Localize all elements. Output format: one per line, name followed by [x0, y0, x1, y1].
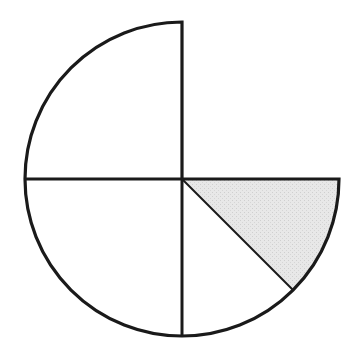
shaded-eighth	[182, 179, 339, 290]
fraction-circle-diagram	[0, 0, 357, 361]
